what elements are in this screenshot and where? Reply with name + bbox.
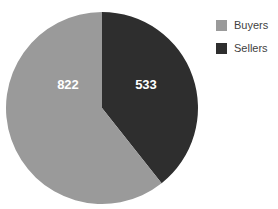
legend-swatch-sellers-icon [216, 43, 227, 54]
slice-label-buyers: 822 [57, 77, 79, 92]
pie-plot-area: 822 533 [0, 0, 210, 209]
legend: Buyers Sellers [216, 19, 278, 54]
legend-item-buyers[interactable]: Buyers [216, 19, 278, 31]
pie-slices [6, 12, 198, 204]
slice-label-sellers: 533 [135, 77, 157, 92]
pie-chart: 822 533 Buyers Sellers [0, 0, 278, 209]
legend-swatch-buyers-icon [216, 20, 227, 31]
legend-label-sellers: Sellers [234, 42, 268, 54]
legend-label-buyers: Buyers [234, 19, 268, 31]
legend-item-sellers[interactable]: Sellers [216, 42, 278, 54]
pie-svg: 822 533 [0, 0, 210, 209]
